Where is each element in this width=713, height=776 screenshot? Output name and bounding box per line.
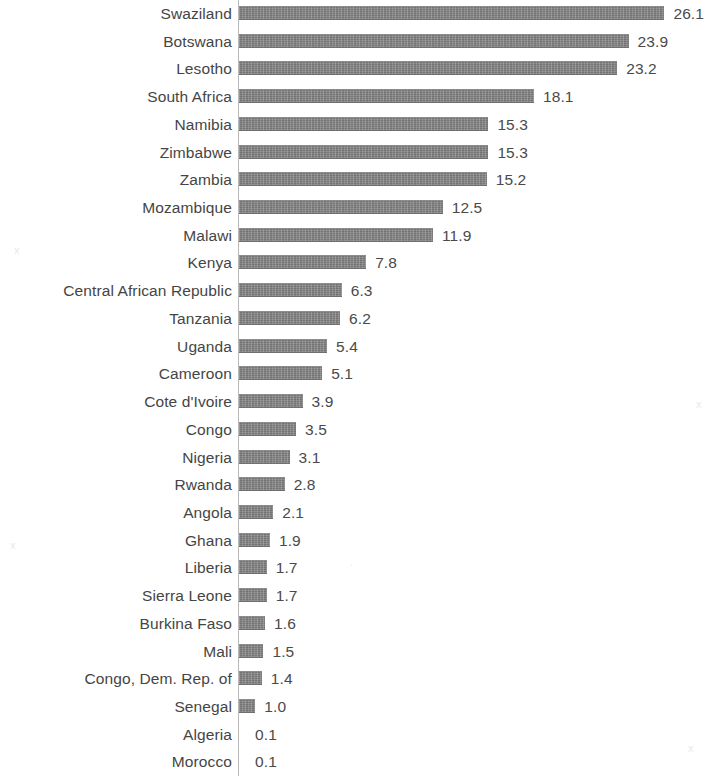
bar-row: Namibia15.3 bbox=[0, 113, 713, 141]
category-label: Lesotho bbox=[0, 59, 232, 79]
bar-row: Swaziland26.1 bbox=[0, 2, 713, 30]
bar bbox=[239, 366, 322, 380]
value-label: 15.3 bbox=[497, 115, 528, 135]
category-label: Zambia bbox=[0, 170, 232, 190]
category-label: Malawi bbox=[0, 226, 232, 246]
bar-row: Sierra Leone1.7 bbox=[0, 584, 713, 612]
category-label: Botswana bbox=[0, 32, 232, 52]
bar bbox=[239, 117, 488, 131]
category-label: Central African Republic bbox=[0, 281, 232, 301]
bar-row: Rwanda2.8 bbox=[0, 473, 713, 501]
bar-row: Central African Republic6.3 bbox=[0, 279, 713, 307]
category-label: Uganda bbox=[0, 337, 232, 357]
category-label: Cote d'Ivoire bbox=[0, 392, 232, 412]
category-label: Nigeria bbox=[0, 448, 232, 468]
category-label: Liberia bbox=[0, 558, 232, 578]
category-label: Sierra Leone bbox=[0, 586, 232, 606]
bar-row: Congo3.5 bbox=[0, 418, 713, 446]
bar-row: Mozambique12.5 bbox=[0, 196, 713, 224]
category-label: Burkina Faso bbox=[0, 614, 232, 634]
value-label: 1.9 bbox=[279, 531, 301, 551]
value-label: 5.1 bbox=[331, 364, 353, 384]
category-label: Congo, Dem. Rep. of bbox=[0, 669, 232, 689]
category-label: Mozambique bbox=[0, 198, 232, 218]
bar bbox=[239, 6, 664, 20]
bar-row: Malawi11.9 bbox=[0, 224, 713, 252]
bar-row: Angola2.1 bbox=[0, 501, 713, 529]
bar bbox=[239, 533, 270, 547]
bar-row: Liberia1.7 bbox=[0, 556, 713, 584]
value-label: 18.1 bbox=[543, 87, 574, 107]
bar bbox=[239, 145, 488, 159]
value-label: 12.5 bbox=[452, 198, 483, 218]
bar bbox=[239, 200, 443, 214]
category-label: South Africa bbox=[0, 87, 232, 107]
value-label: 1.7 bbox=[276, 586, 298, 606]
value-label: 23.9 bbox=[638, 32, 669, 52]
value-label: 3.5 bbox=[305, 420, 327, 440]
value-label: 26.1 bbox=[673, 4, 704, 24]
value-label: 0.1 bbox=[255, 752, 277, 772]
value-label: 3.1 bbox=[299, 448, 321, 468]
category-label: Ghana bbox=[0, 531, 232, 551]
value-label: 1.7 bbox=[276, 558, 298, 578]
bar bbox=[239, 283, 342, 297]
bar-row: Senegal1.0 bbox=[0, 695, 713, 723]
bar bbox=[239, 172, 487, 186]
bar bbox=[239, 61, 617, 75]
bar-row: Ghana1.9 bbox=[0, 529, 713, 557]
bar-row: Mali1.5 bbox=[0, 640, 713, 668]
value-label: 6.3 bbox=[351, 281, 373, 301]
bar-row: Morocco0.1 bbox=[0, 750, 713, 776]
category-label: Senegal bbox=[0, 697, 232, 717]
bar-row: Kenya7.8 bbox=[0, 251, 713, 279]
bar bbox=[239, 588, 267, 602]
category-label: Congo bbox=[0, 420, 232, 440]
bar-row: Uganda5.4 bbox=[0, 335, 713, 363]
bar bbox=[239, 671, 262, 685]
category-label: Zimbabwe bbox=[0, 143, 232, 163]
category-label: Namibia bbox=[0, 115, 232, 135]
bar bbox=[239, 644, 263, 658]
value-label: 1.6 bbox=[274, 614, 296, 634]
value-label: 2.8 bbox=[294, 475, 316, 495]
value-label: 2.1 bbox=[282, 503, 304, 523]
value-label: 5.4 bbox=[336, 337, 358, 357]
bar bbox=[239, 422, 296, 436]
bar bbox=[239, 477, 285, 491]
bar bbox=[239, 560, 267, 574]
value-label: 11.9 bbox=[442, 226, 471, 246]
category-label: Mali bbox=[0, 642, 232, 662]
bar-row: Tanzania6.2 bbox=[0, 307, 713, 335]
bar-row: Lesotho23.2 bbox=[0, 57, 713, 85]
category-label: Kenya bbox=[0, 253, 232, 273]
bar-row: Zambia15.2 bbox=[0, 168, 713, 196]
value-label: 0.1 bbox=[255, 725, 277, 745]
bar-chart: Swaziland26.1Botswana23.9Lesotho23.2Sout… bbox=[0, 0, 713, 776]
bar bbox=[239, 616, 265, 630]
bar bbox=[239, 394, 303, 408]
bar-row: Botswana23.9 bbox=[0, 30, 713, 58]
value-label: 7.8 bbox=[375, 253, 397, 273]
bar bbox=[239, 699, 255, 713]
bar bbox=[239, 228, 433, 242]
value-label: 6.2 bbox=[349, 309, 371, 329]
bar bbox=[239, 311, 340, 325]
category-label: Rwanda bbox=[0, 475, 232, 495]
value-label: 23.2 bbox=[626, 59, 657, 79]
category-label: Swaziland bbox=[0, 4, 232, 24]
value-label: 1.4 bbox=[271, 669, 293, 689]
bar-row: Burkina Faso1.6 bbox=[0, 612, 713, 640]
value-label: 3.9 bbox=[312, 392, 334, 412]
value-label: 1.0 bbox=[264, 697, 286, 717]
category-label: Angola bbox=[0, 503, 232, 523]
bar-row: Nigeria3.1 bbox=[0, 446, 713, 474]
bar bbox=[239, 89, 534, 103]
bar bbox=[239, 34, 629, 48]
bar-row: Cameroon5.1 bbox=[0, 362, 713, 390]
bar-rows-container: Swaziland26.1Botswana23.9Lesotho23.2Sout… bbox=[0, 0, 713, 776]
bar bbox=[239, 505, 273, 519]
value-label: 15.3 bbox=[497, 143, 528, 163]
category-label: Cameroon bbox=[0, 364, 232, 384]
category-label: Algeria bbox=[0, 725, 232, 745]
